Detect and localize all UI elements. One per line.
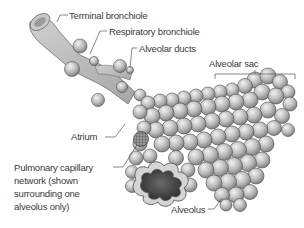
label-atrium: Atrium	[71, 131, 97, 142]
label-alveolar-ducts: Alveolar ducts	[139, 43, 196, 54]
label-pulmonary-capillary-line3: surrounding one	[14, 188, 80, 199]
capillary-alveolus	[134, 132, 149, 147]
label-alveolar-sac: Alveolar sac	[209, 58, 258, 69]
label-pulmonary-capillary-line2: network (shown	[14, 175, 78, 186]
label-terminal-bronchiole: Terminal bronchiole	[69, 10, 148, 21]
label-pulmonary-capillary-line1: Pulmonary capillary	[14, 162, 93, 173]
label-pulmonary-capillary-line4: alveolus only)	[14, 201, 69, 212]
label-alveolus: Alveolus	[171, 204, 205, 215]
sectioned-alveolus	[133, 162, 188, 207]
label-respiratory-bronchiole: Respiratory bronchiole	[109, 26, 200, 37]
